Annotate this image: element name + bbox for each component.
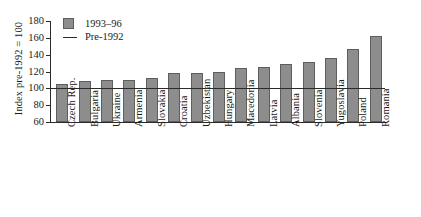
x-axis-label: Ukraine (111, 92, 122, 127)
x-axis-label: Slovakia (156, 89, 167, 127)
y-tick-label: 180 (2, 16, 44, 27)
y-tick-mark (46, 105, 50, 106)
y-tick-mark (46, 122, 50, 123)
y-tick-mark (46, 55, 50, 56)
x-axis-label: Yugoslavia (335, 79, 346, 127)
x-axis-label: Albania (290, 93, 301, 127)
y-tick-label: 60 (2, 117, 44, 128)
x-axis-label: Uzbekistan (201, 79, 212, 127)
x-axis-label: Armenia (133, 90, 144, 127)
x-axis-label: Poland (357, 97, 368, 127)
x-axis-label: Bulgaria (89, 90, 100, 127)
y-tick-label: 120 (2, 67, 44, 78)
y-tick-label: 160 (2, 33, 44, 44)
y-tick-mark (46, 72, 50, 73)
legend-square-swatch-icon (63, 18, 74, 29)
x-axis-label: Croatia (178, 95, 189, 127)
legend-label-bar: 1993–96 (85, 17, 122, 30)
legend-horizontal-line-icon (63, 37, 77, 38)
y-tick-label: 80 (2, 100, 44, 111)
x-axis-label: Latvia (268, 100, 279, 127)
x-axis-label: Czech Rep. (66, 78, 77, 127)
bar-chart: Index pre-1992 = 100 6080100120140160180… (0, 0, 421, 217)
y-tick-label: 100 (2, 83, 44, 94)
x-axis-label: Romania (380, 88, 391, 127)
legend-label-line: Pre-1992 (85, 30, 124, 43)
x-axis-label: Hungary (223, 90, 234, 127)
x-axis-label: Macedonia (245, 79, 256, 127)
x-axis-label: Slovenia (313, 89, 324, 127)
y-tick-mark (46, 21, 50, 22)
y-tick-mark (46, 38, 50, 39)
y-axis-line (50, 21, 51, 122)
y-tick-label: 140 (2, 50, 44, 61)
